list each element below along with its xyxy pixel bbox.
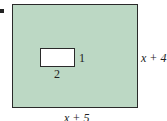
problem-marker: [0, 9, 4, 13]
outer-width-label: x + 5: [64, 112, 89, 121]
inner-width-label: 2: [54, 68, 60, 80]
inner-rectangle: [40, 48, 75, 67]
outer-rectangle: [12, 4, 138, 108]
inner-height-label: 1: [79, 52, 85, 64]
outer-height-label: x + 4: [141, 52, 166, 64]
